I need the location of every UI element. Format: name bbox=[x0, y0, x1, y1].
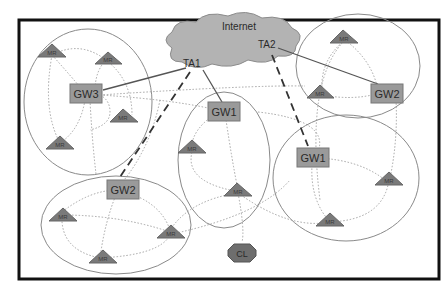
svg-text:MR: MR bbox=[187, 146, 197, 152]
internet-label: Internet bbox=[222, 21, 256, 32]
gw2-bottom-label: GW2 bbox=[110, 184, 135, 196]
network-diagram: Internet TA1 TA2 GW3 GW1 GW2 GW1 bbox=[0, 0, 447, 298]
svg-text:MR: MR bbox=[47, 50, 57, 56]
svg-text:MR: MR bbox=[339, 36, 349, 42]
svg-text:MR: MR bbox=[98, 256, 108, 262]
svg-text:MR: MR bbox=[384, 178, 394, 184]
svg-text:MR: MR bbox=[118, 115, 128, 121]
client-label: CL bbox=[236, 249, 248, 259]
client-node[interactable]: CL bbox=[228, 244, 256, 262]
ta1-label: TA1 bbox=[183, 58, 201, 69]
ta2-label: TA2 bbox=[258, 39, 276, 50]
gateway-gw3[interactable]: GW3 bbox=[70, 84, 102, 103]
svg-text:MR: MR bbox=[166, 231, 176, 237]
gw1-center-label: GW1 bbox=[211, 106, 236, 118]
svg-text:MR: MR bbox=[55, 142, 65, 148]
gateway-gw2-top[interactable]: GW2 bbox=[371, 84, 403, 103]
svg-text:MR: MR bbox=[315, 91, 325, 97]
gateway-gw2-bottom[interactable]: GW2 bbox=[107, 180, 139, 199]
svg-text:MR: MR bbox=[103, 57, 113, 63]
gateway-gw1-center[interactable]: GW1 bbox=[208, 102, 240, 121]
svg-text:MR: MR bbox=[58, 214, 68, 220]
gateway-gw1-right[interactable]: GW1 bbox=[297, 148, 329, 167]
gw2-top-label: GW2 bbox=[374, 88, 399, 100]
svg-text:MR: MR bbox=[233, 189, 243, 195]
gw1-right-label: GW1 bbox=[300, 152, 325, 164]
gw3-label: GW3 bbox=[73, 88, 98, 100]
svg-text:MR: MR bbox=[325, 219, 335, 225]
